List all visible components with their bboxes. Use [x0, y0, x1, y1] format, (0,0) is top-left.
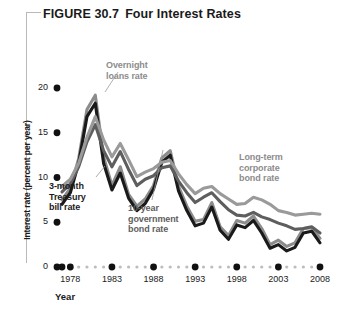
y-axis-tick-dots [54, 85, 61, 271]
x-axis-major-dots [59, 264, 324, 271]
series-label-tbill-line1: 3-month [49, 181, 86, 192]
series-label-tenyear-line2: government [128, 214, 179, 225]
series-label-corporate-line1: Long-term [239, 152, 283, 163]
series-label-tbill-line2: Treasury [49, 192, 86, 203]
series-label-tenyear-line1: 10-year [128, 203, 179, 214]
x-tick-label-1988: 1988 [136, 274, 172, 284]
series-label-overnight-line1: Overnight [106, 60, 148, 71]
chart-canvas [0, 0, 343, 316]
x-tick-label-2003: 2003 [260, 274, 296, 284]
y-tick-label-0: 0 [26, 261, 48, 271]
series-label-corporate-line2: corporate [239, 163, 283, 174]
series-label-overnight: Overnight loans rate [106, 60, 148, 81]
series-label-tbill-line3: bill rate [49, 202, 86, 213]
series-label-tenyear-line3: bond rate [128, 224, 179, 235]
x-tick-label-1978: 1978 [52, 274, 88, 284]
y-tick-label-20: 20 [26, 82, 48, 92]
x-tick-label-1998: 1998 [219, 274, 255, 284]
series-label-overnight-line2: loans rate [106, 71, 148, 82]
x-tick-label-1983: 1983 [94, 274, 130, 284]
series-label-tenyear: 10-year government bond rate [128, 203, 179, 235]
series-label-tbill: 3-month Treasury bill rate [49, 181, 86, 213]
leader-line-1 [96, 166, 105, 177]
y-tick-label-15: 15 [26, 127, 48, 137]
y-tick-label-10: 10 [26, 172, 48, 182]
series-label-corporate-line3: bond rate [239, 173, 283, 184]
x-tick-label-2008: 2008 [302, 274, 338, 284]
y-tick-label-5: 5 [26, 216, 48, 226]
x-axis-title: Year [55, 291, 75, 302]
figure-container: FIGURE 30.7Four Interest Rates Interest … [0, 0, 343, 316]
series-label-corporate: Long-term corporate bond rate [239, 152, 283, 184]
x-tick-label-1993: 1993 [177, 274, 213, 284]
plot-area [0, 0, 343, 316]
